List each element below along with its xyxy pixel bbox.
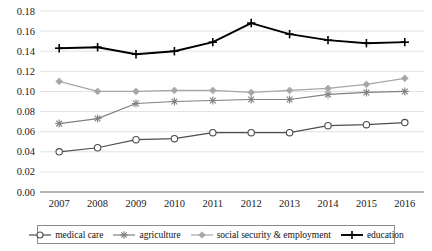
y-tick-label: 0.08 — [17, 106, 35, 117]
y-tick-label: 0.18 — [17, 6, 35, 17]
y-tick-label: 0.06 — [17, 126, 35, 137]
chart-legend: medical careagriculturesocial security &… — [37, 225, 395, 244]
diamond-marker-icon — [363, 81, 370, 88]
x-tick-label: 2009 — [126, 198, 147, 209]
x-tick-label: 2015 — [356, 198, 377, 209]
legend-item-education[interactable]: education — [340, 229, 404, 241]
y-tick-label: 0.04 — [17, 146, 36, 157]
legend-item-social-security-employment[interactable]: social security & employment — [190, 229, 331, 241]
asterisk-marker-icon — [362, 88, 370, 96]
x-tick-label: 2008 — [87, 198, 108, 209]
y-tick-label: 0.10 — [17, 86, 35, 97]
asterisk-marker-icon — [247, 95, 255, 103]
legend-label: medical care — [55, 230, 103, 240]
series-line — [59, 123, 405, 152]
diamond-marker-icon — [248, 89, 255, 96]
asterisk-marker-icon — [401, 87, 409, 95]
circle-marker-icon — [133, 137, 139, 143]
y-axis-tick-labels: 0.000.020.040.060.080.100.120.140.160.18 — [17, 6, 36, 198]
series-line — [59, 78, 405, 92]
plus-marker-icon — [170, 47, 178, 55]
x-axis-tick-labels: 2007200820092010201120122013201420152016 — [49, 198, 416, 209]
plus-marker-icon — [324, 36, 332, 44]
circle-marker-icon — [28, 229, 52, 241]
circle-marker-icon — [56, 149, 62, 155]
y-tick-label: 0.16 — [17, 26, 35, 37]
circle-marker-icon — [286, 129, 292, 135]
legend-label: agriculture — [139, 230, 180, 240]
diamond-marker-icon — [190, 229, 214, 241]
chart-canvas: 0.000.020.040.060.080.100.120.140.160.18… — [0, 0, 432, 251]
plus-marker-icon — [401, 38, 409, 46]
asterisk-marker-icon — [286, 95, 294, 103]
asterisk-marker-icon — [112, 229, 136, 241]
diamond-marker-icon — [209, 87, 216, 94]
line-chart-figure: 0.000.020.040.060.080.100.120.140.160.18… — [0, 0, 432, 251]
x-tick-label: 2013 — [279, 198, 300, 209]
circle-marker-icon — [37, 231, 43, 237]
x-tick-label: 2014 — [318, 198, 340, 209]
plus-marker-icon — [209, 38, 217, 46]
diamond-marker-icon — [401, 75, 408, 82]
asterisk-marker-icon — [132, 100, 140, 108]
plus-marker-icon — [93, 43, 101, 51]
plus-marker-icon — [340, 229, 364, 241]
x-tick-label: 2007 — [49, 198, 70, 209]
series-line — [59, 91, 405, 123]
y-tick-label: 0.12 — [17, 66, 35, 77]
legend-label: social security & employment — [217, 230, 331, 240]
series-line — [59, 23, 405, 54]
diamond-marker-icon — [94, 88, 101, 95]
x-tick-label: 2010 — [164, 198, 185, 209]
asterisk-marker-icon — [121, 231, 129, 239]
circle-marker-icon — [363, 121, 369, 127]
circle-marker-icon — [325, 122, 331, 128]
y-tick-label: 0.02 — [17, 166, 35, 177]
circle-marker-icon — [210, 129, 216, 135]
plus-marker-icon — [247, 19, 255, 27]
series-agriculture — [55, 87, 409, 127]
y-tick-label: 0.00 — [17, 187, 35, 198]
asterisk-marker-icon — [55, 120, 63, 128]
asterisk-marker-icon — [209, 96, 217, 104]
x-tick-label: 2012 — [241, 198, 262, 209]
legend-item-agriculture[interactable]: agriculture — [112, 229, 180, 241]
gridlines — [40, 11, 424, 192]
diamond-marker-icon — [286, 87, 293, 94]
diamond-marker-icon — [133, 88, 140, 95]
circle-marker-icon — [248, 129, 254, 135]
circle-marker-icon — [171, 136, 177, 142]
diamond-marker-icon — [325, 85, 332, 92]
legend-item-medical-care[interactable]: medical care — [28, 229, 103, 241]
plus-marker-icon — [362, 39, 370, 47]
y-tick-label: 0.14 — [17, 46, 36, 57]
x-tick-label: 2016 — [394, 198, 415, 209]
series-education — [55, 19, 409, 59]
diamond-marker-icon — [56, 78, 63, 85]
circle-marker-icon — [402, 119, 408, 125]
series-medical-care — [56, 119, 408, 155]
asterisk-marker-icon — [170, 98, 178, 106]
asterisk-marker-icon — [94, 115, 102, 123]
circle-marker-icon — [94, 145, 100, 151]
diamond-marker-icon — [171, 87, 178, 94]
legend-label: education — [367, 230, 404, 240]
x-tick-label: 2011 — [202, 198, 223, 209]
plus-marker-icon — [348, 231, 356, 239]
data-series-group — [55, 19, 409, 155]
diamond-marker-icon — [198, 231, 204, 237]
